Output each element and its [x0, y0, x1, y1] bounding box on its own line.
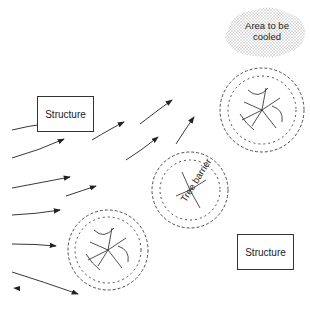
tree-3 [220, 68, 304, 152]
structure-bottom-label: Structure [245, 247, 286, 258]
cooled-area-label: Area to be cooled [234, 20, 300, 42]
structure-top-label: Structure [45, 109, 86, 120]
cooled-area-label-line2: cooled [253, 31, 281, 42]
diagram-canvas: Area to be cooled Structure Structure Tr… [0, 0, 310, 309]
tree-1 [68, 210, 148, 290]
cooled-area-label-line1: Area to be [245, 20, 289, 31]
structure-bottom-box: Structure [237, 234, 294, 270]
structure-top-box: Structure [37, 96, 94, 132]
